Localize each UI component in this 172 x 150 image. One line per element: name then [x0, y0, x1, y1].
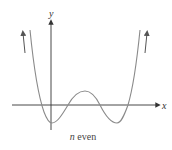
- caption-text: even: [75, 131, 96, 142]
- polynomial-curve: [30, 30, 140, 123]
- polynomial-graph: y x n even: [0, 0, 172, 150]
- x-axis-label: x: [161, 100, 167, 111]
- y-axis-label: y: [48, 8, 54, 19]
- figure-caption: n even: [70, 131, 96, 142]
- right-end-arrow-icon: [145, 33, 147, 53]
- left-end-arrow-icon: [23, 33, 25, 53]
